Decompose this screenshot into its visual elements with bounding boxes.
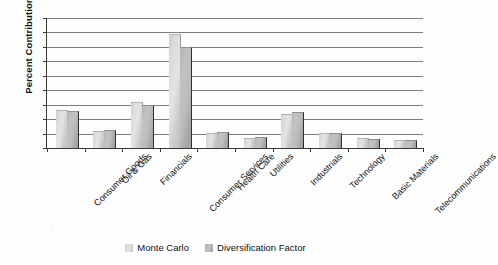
bar xyxy=(330,133,342,148)
bar xyxy=(368,139,380,148)
bar xyxy=(67,111,79,148)
x-axis-category-label: Industrials xyxy=(309,152,344,187)
legend-label: Monte Carlo xyxy=(137,242,189,253)
x-axis-tick-mark xyxy=(235,148,236,152)
chart-legend: Monte CarloDiversification Factor xyxy=(0,242,431,253)
y-axis-tick-mark xyxy=(43,18,47,19)
y-axis-tick-mark xyxy=(43,90,47,91)
bar-group xyxy=(90,18,116,148)
legend-swatch xyxy=(125,244,133,252)
legend-item[interactable]: Monte Carlo xyxy=(125,242,189,253)
bar xyxy=(217,132,229,148)
bar xyxy=(292,112,304,148)
bar xyxy=(405,140,417,148)
plot-area: 051015202530354045 xyxy=(46,18,423,149)
x-axis-tick-mark xyxy=(423,148,424,152)
x-axis-tick-mark xyxy=(273,148,274,152)
x-axis-category-label: Financials xyxy=(159,152,194,187)
legend-item[interactable]: Diversification Factor xyxy=(205,242,306,253)
y-axis-tick-mark xyxy=(43,61,47,62)
bar-group xyxy=(354,18,380,148)
x-axis-category-label: Technology xyxy=(348,152,387,191)
bar-group xyxy=(53,18,79,148)
y-axis-tick-mark xyxy=(43,32,47,33)
x-axis-tick-mark xyxy=(310,148,311,152)
x-axis-tick-mark xyxy=(197,148,198,152)
y-axis-tick-mark xyxy=(43,47,47,48)
legend-swatch xyxy=(205,244,213,252)
bar-group xyxy=(241,18,267,148)
bar-group xyxy=(166,18,192,148)
x-axis-tick-mark xyxy=(47,148,48,152)
y-axis-tick-mark xyxy=(43,119,47,120)
x-axis-tick-mark xyxy=(160,148,161,152)
y-axis-tick-mark xyxy=(43,105,47,106)
bar-group xyxy=(203,18,229,148)
x-axis-tick-mark xyxy=(122,148,123,152)
y-axis-tick-mark xyxy=(43,76,47,77)
legend-label: Diversification Factor xyxy=(217,242,306,253)
bar-group xyxy=(391,18,417,148)
x-axis-tick-mark xyxy=(85,148,86,152)
y-axis-title: Percent Contribution xyxy=(23,0,34,121)
bar xyxy=(104,130,116,148)
x-axis-category-label: Telecommunications xyxy=(434,152,498,216)
bar xyxy=(142,105,154,148)
x-axis-tick-mark xyxy=(385,148,386,152)
bar-group xyxy=(128,18,154,148)
y-axis-tick-mark xyxy=(43,134,47,135)
bar xyxy=(255,137,267,148)
x-axis-category-label: Basic Materials xyxy=(390,152,440,202)
bar-group xyxy=(316,18,342,148)
bar-group xyxy=(278,18,304,148)
bar xyxy=(180,47,192,148)
x-axis-tick-mark xyxy=(348,148,349,152)
